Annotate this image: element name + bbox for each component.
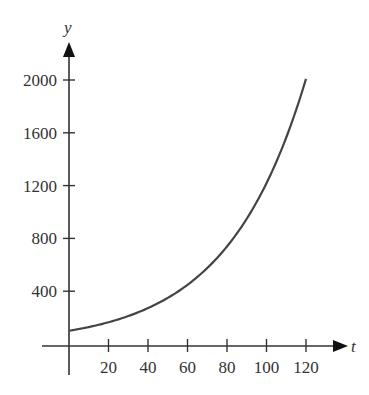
x-tick-label: 100 bbox=[254, 358, 280, 377]
y-tick-label: 1600 bbox=[23, 124, 57, 143]
y-tick-label: 800 bbox=[32, 229, 58, 248]
x-axis-label: t bbox=[351, 337, 357, 356]
x-tick-label: 60 bbox=[179, 358, 196, 377]
y-tick-label: 2000 bbox=[23, 71, 57, 90]
x-tick-label: 120 bbox=[293, 358, 319, 377]
tick-labels: 40080012001600200020406080100120 bbox=[23, 71, 319, 377]
exponential-growth-chart: 40080012001600200020406080100120 y t bbox=[0, 0, 369, 395]
data-curve bbox=[69, 79, 306, 331]
x-axis-arrow-icon bbox=[333, 340, 348, 352]
y-tick-label: 400 bbox=[32, 282, 58, 301]
y-axis-arrow-icon bbox=[63, 42, 75, 57]
y-tick-label: 1200 bbox=[23, 177, 57, 196]
y-axis-label: y bbox=[62, 18, 72, 37]
x-tick-label: 20 bbox=[100, 358, 117, 377]
ticks bbox=[63, 80, 306, 352]
x-tick-label: 80 bbox=[219, 358, 236, 377]
x-tick-label: 40 bbox=[140, 358, 157, 377]
